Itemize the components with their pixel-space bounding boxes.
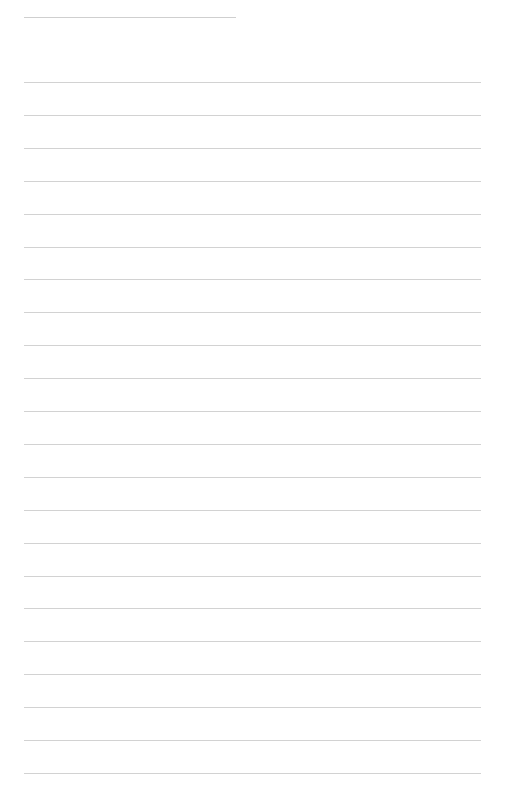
- ruled-line: [24, 707, 481, 708]
- ruled-line: [24, 411, 481, 412]
- ruled-line: [24, 740, 481, 741]
- ruled-line: [24, 477, 481, 478]
- ruled-line: [24, 115, 481, 116]
- ruled-line: [24, 82, 481, 83]
- ruled-line: [24, 510, 481, 511]
- ruled-line: [24, 608, 481, 609]
- ruled-line: [24, 247, 481, 248]
- ruled-line: [24, 641, 481, 642]
- ruled-line: [24, 674, 481, 675]
- ruled-line: [24, 576, 481, 577]
- ruled-line: [24, 378, 481, 379]
- ruled-line: [24, 312, 481, 313]
- ruled-line: [24, 543, 481, 544]
- ruled-line: [24, 773, 481, 774]
- ruled-line: [24, 181, 481, 182]
- ruled-line: [24, 345, 481, 346]
- ruled-line: [24, 444, 481, 445]
- lined-page: [0, 0, 507, 807]
- ruled-line: [24, 279, 481, 280]
- ruled-line: [24, 148, 481, 149]
- ruled-line: [24, 214, 481, 215]
- header-line: [24, 17, 236, 18]
